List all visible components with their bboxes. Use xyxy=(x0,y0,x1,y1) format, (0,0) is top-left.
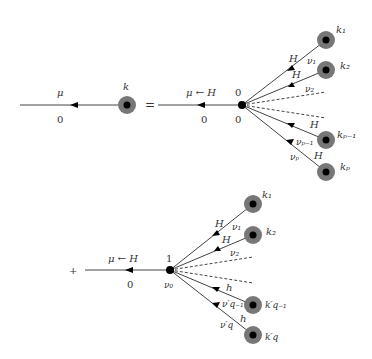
label: k′q xyxy=(265,332,278,342)
label: νₚ xyxy=(290,152,299,162)
label: 0 xyxy=(235,87,241,98)
label: H xyxy=(214,218,224,229)
label: ν₀ xyxy=(164,280,173,290)
label: μ ← H xyxy=(186,87,216,98)
label: 0 xyxy=(57,114,63,125)
label: k₁ xyxy=(336,24,346,35)
label: ν₁ xyxy=(232,222,241,232)
label: k₂ xyxy=(266,226,276,237)
label: = xyxy=(145,98,155,112)
label: νₚ₋₁ xyxy=(296,137,313,147)
label: h xyxy=(226,282,232,293)
label: k xyxy=(123,81,129,92)
label: k₂ xyxy=(340,60,350,71)
label: H xyxy=(221,234,231,245)
label: H xyxy=(313,150,323,161)
label: μ ← H xyxy=(108,253,138,264)
label: μ xyxy=(57,87,64,98)
blobs xyxy=(118,31,335,344)
label: ν₁ xyxy=(307,56,316,66)
label: + xyxy=(69,265,77,276)
label: ν′q₋₁ xyxy=(222,299,244,309)
label: 0 xyxy=(235,114,241,125)
diagram: μ 0 k = μ ← H 0 0 0 k₁ k₂ kₚ₋₁ kₚ H ν₁ H… xyxy=(0,0,372,359)
label: 0 xyxy=(127,279,133,290)
label: H xyxy=(309,119,319,130)
label: kₚ xyxy=(340,161,350,172)
label: ν₂ xyxy=(230,248,239,258)
label: ν′q xyxy=(220,320,234,330)
label: H xyxy=(288,53,298,64)
label: kₚ₋₁ xyxy=(337,129,356,140)
label: H xyxy=(291,69,301,80)
label: ν₂ xyxy=(305,84,314,94)
label: 0 xyxy=(201,114,207,125)
label: h xyxy=(240,313,246,324)
label: k′q₋₁ xyxy=(265,300,287,310)
label: 1 xyxy=(166,253,172,264)
label: k₁ xyxy=(262,189,272,200)
